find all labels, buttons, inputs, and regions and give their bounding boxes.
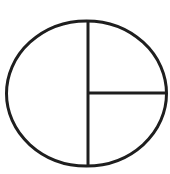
diagram-canvas: Ellipse divided by a vertical diameter; …	[0, 0, 170, 174]
divided-ellipse-figure	[0, 0, 170, 174]
